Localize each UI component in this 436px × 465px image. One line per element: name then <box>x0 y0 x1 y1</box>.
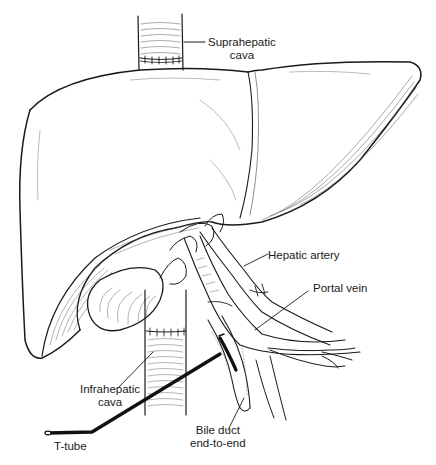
label-infrahepatic-cava-line1: Infrahepatic <box>80 383 140 396</box>
suprahepatic-cava-vessel <box>138 14 205 70</box>
label-infrahepatic-cava: Infrahepatic cava <box>80 383 140 409</box>
label-bile-duct-line2: end-to-end <box>190 437 246 450</box>
label-bile-duct: Bile duct end-to-end <box>190 424 246 450</box>
label-t-tube: T-tube <box>54 440 87 453</box>
label-suprahepatic-cava-line2: cava <box>208 49 276 62</box>
label-portal-vein: Portal vein <box>313 282 367 295</box>
liver-outline <box>20 62 421 359</box>
vessel-branches <box>256 348 355 420</box>
liver-transplant-illustration: Suprahepatic cava Hepatic artery Portal … <box>0 0 436 465</box>
label-suprahepatic-cava-line1: Suprahepatic <box>208 36 276 49</box>
label-hepatic-artery: Hepatic artery <box>268 249 340 262</box>
label-bile-duct-line1: Bile duct <box>190 424 246 437</box>
anatomy-drawing <box>0 0 436 465</box>
label-suprahepatic-cava: Suprahepatic cava <box>208 36 276 62</box>
gallbladder <box>88 268 164 331</box>
t-tube <box>45 334 236 435</box>
label-infrahepatic-cava-line2: cava <box>80 396 140 409</box>
